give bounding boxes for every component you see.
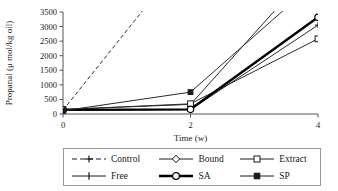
x-tick-label-0: 0 (61, 120, 65, 130)
chart-legend: Control Bound Extract (63, 148, 321, 186)
legend-item-extract: Extract (239, 153, 320, 165)
data-point-sa-x4 (315, 14, 321, 20)
y-tick-label-1500: 1500 (40, 65, 57, 75)
solid-plus-key-icon (71, 170, 107, 182)
y-tick-label-3500: 3500 (40, 7, 57, 17)
series-line-extract (63, 39, 318, 110)
x-tick-label-4: 4 (316, 120, 321, 130)
solid-square-filled-key-icon (239, 170, 275, 182)
data-point-sp-x2 (188, 90, 193, 95)
legend-item-bound: Bound (158, 153, 239, 165)
data-point-free-x4 (315, 22, 321, 28)
legend-label-sa: SA (198, 171, 210, 181)
legend-item-free: Free (64, 170, 158, 182)
series-line-control (63, 0, 191, 110)
y-axis-title: Propanal (μ mol/kg oil) (4, 21, 14, 106)
legend-item-sp: SP (239, 170, 320, 182)
legend-label-extract: Extract (279, 154, 306, 164)
y-tick-label-500: 500 (44, 94, 57, 104)
legend-item-control: Control (64, 153, 158, 165)
y-tick-label-2000: 2000 (40, 51, 57, 61)
series-line-sa (63, 17, 318, 110)
chart-figure: 0500100015002000250030003500024Time (w)P… (0, 0, 338, 191)
data-point-sa-x2 (187, 106, 193, 112)
y-tick-label-1000: 1000 (40, 80, 57, 90)
dashed-plus-key-icon (71, 153, 107, 165)
x-axis-title: Time (w) (174, 133, 207, 143)
solid-square-open-key-icon (239, 153, 275, 165)
y-tick-label-3000: 3000 (40, 22, 57, 32)
thick-circle-key-icon (158, 170, 194, 182)
legend-label-sp: SP (279, 171, 290, 181)
series-line-free (63, 25, 318, 110)
legend-item-sa: SA (158, 170, 239, 182)
legend-label-control: Control (111, 154, 140, 164)
legend-label-bound: Bound (198, 154, 223, 164)
legend-row: Free SA SP (64, 167, 320, 184)
y-tick-label-2500: 2500 (40, 36, 57, 46)
data-point-sp-x0 (61, 108, 66, 113)
data-point-extract-x4 (315, 36, 321, 42)
series-group (60, 0, 322, 114)
solid-diamond-key-icon (158, 153, 194, 165)
legend-label-free: Free (111, 171, 128, 181)
x-tick-label-2: 2 (188, 120, 192, 130)
y-tick-label-0: 0 (53, 109, 57, 119)
legend-row: Control Bound Extract (64, 150, 320, 167)
